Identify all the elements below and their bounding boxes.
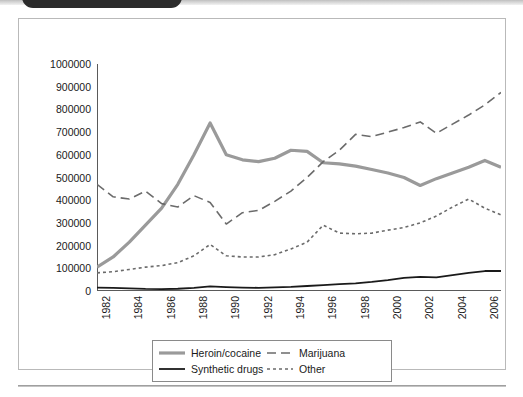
x-tick-label: 1982 xyxy=(101,295,112,318)
legend-label: Marijuana xyxy=(299,347,345,359)
horizontal-rule xyxy=(18,385,506,387)
top-tab-pill xyxy=(22,0,182,8)
x-tick-label: 1996 xyxy=(327,295,338,318)
y-tick-label: 200000 xyxy=(25,241,91,251)
series-line-marijuana xyxy=(97,92,501,224)
x-tick-label: 1994 xyxy=(295,295,306,318)
series-line-heroin-cocaine xyxy=(97,123,501,267)
legend-swatch-icon xyxy=(267,364,293,374)
line-chart-svg xyxy=(97,64,501,291)
x-tick-label: 1990 xyxy=(230,295,241,318)
x-tick-label: 1992 xyxy=(263,295,274,318)
y-tick-label: 800000 xyxy=(25,104,91,114)
x-tick-label: 2002 xyxy=(424,295,435,318)
y-tick-label: 300000 xyxy=(25,218,91,228)
y-tick-label: 100000 xyxy=(25,263,91,273)
series-line-synthetic-drugs xyxy=(97,271,501,289)
legend-item[interactable]: Marijuana xyxy=(267,347,399,359)
legend-label: Other xyxy=(299,363,325,375)
window-top-decoration xyxy=(0,0,523,9)
plot-area xyxy=(97,64,501,291)
legend-item[interactable]: Other xyxy=(267,363,399,375)
legend-label: Synthetic drugs xyxy=(191,363,263,375)
chart-frame: 1000000900000800000700000600000500000400… xyxy=(18,18,506,370)
chart-legend: Heroin/cocaineMarijuanaSynthetic drugsOt… xyxy=(152,340,392,382)
x-tick-label: 2006 xyxy=(489,295,500,318)
y-axis-tick-labels: 1000000900000800000700000600000500000400… xyxy=(23,64,91,291)
legend-item[interactable]: Heroin/cocaine xyxy=(159,347,267,359)
y-tick-label: 1000000 xyxy=(25,59,91,69)
y-tick-label: 600000 xyxy=(25,150,91,160)
x-tick-label: 1988 xyxy=(198,295,209,318)
legend-swatch-icon xyxy=(159,364,185,374)
y-tick-label: 0 xyxy=(25,286,91,296)
x-tick-label: 2000 xyxy=(392,295,403,318)
x-axis-tick-labels: 1982198419861988199019921994199619982000… xyxy=(97,295,501,339)
x-tick-label: 1986 xyxy=(166,295,177,318)
legend-swatch-icon xyxy=(267,348,293,358)
y-tick-label: 400000 xyxy=(25,195,91,205)
y-tick-label: 700000 xyxy=(25,127,91,137)
x-tick-label: 2004 xyxy=(457,295,468,318)
legend-swatch-icon xyxy=(159,348,185,358)
x-tick-label: 1984 xyxy=(133,295,144,318)
x-tick-label: 1998 xyxy=(360,295,371,318)
legend-grid: Heroin/cocaineMarijuanaSynthetic drugsOt… xyxy=(159,345,385,377)
legend-item[interactable]: Synthetic drugs xyxy=(159,363,267,375)
y-tick-label: 900000 xyxy=(25,82,91,92)
series-group xyxy=(97,92,501,289)
y-tick-label: 500000 xyxy=(25,173,91,183)
legend-label: Heroin/cocaine xyxy=(191,347,261,359)
